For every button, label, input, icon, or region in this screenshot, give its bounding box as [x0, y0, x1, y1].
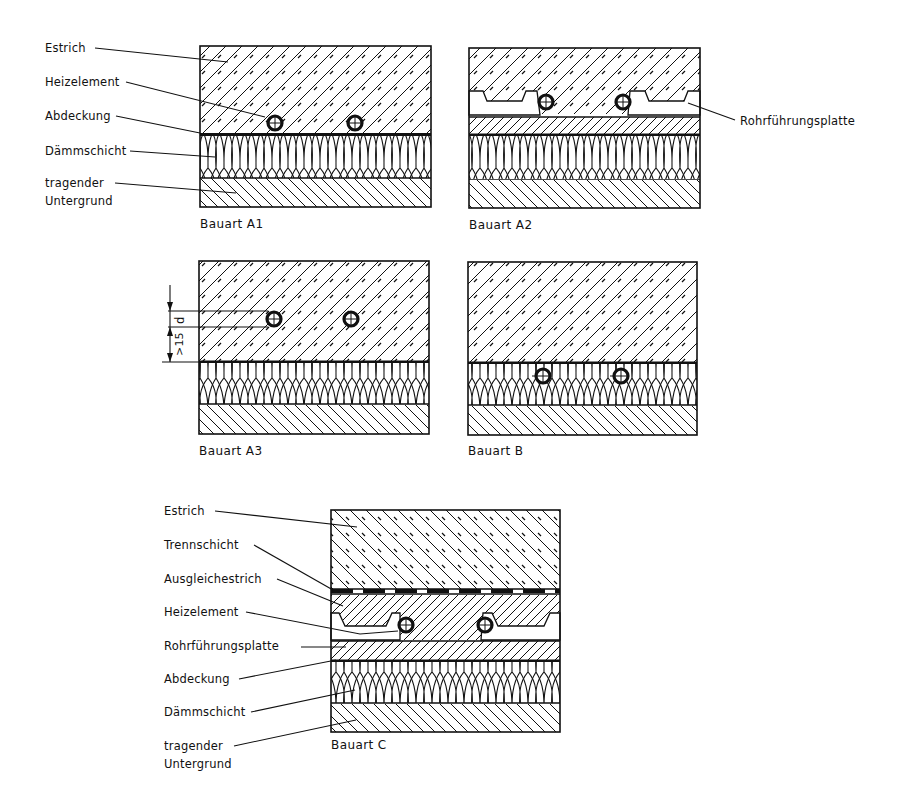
heating-pipe-icon — [539, 95, 553, 109]
label-estrich: Estrich — [164, 504, 205, 518]
insulation-layer — [200, 136, 431, 178]
insulation-layer — [469, 136, 700, 179]
label-tragender: tragender — [45, 176, 104, 190]
label-trennschicht: Trennschicht — [163, 538, 239, 552]
floor-heating-diagram: Estrich Heizelement Abdeckung Dämmschich… — [0, 0, 912, 809]
estrich-layer — [331, 510, 560, 589]
caption-bauart-b: Bauart B — [468, 444, 523, 458]
label-heizelement: Heizelement — [45, 75, 120, 89]
subfloor-layer — [468, 406, 697, 435]
panel-bauart-a1: Estrich Heizelement Abdeckung Dämmschich… — [45, 41, 431, 231]
caption-bauart-a1: Bauart A1 — [200, 217, 263, 231]
insulation-layer — [199, 363, 429, 404]
label-rohrfuehrungsplatte: Rohrführungsplatte — [164, 639, 279, 653]
panel-bauart-a3: d >15 Bauart A3 — [162, 261, 429, 458]
caption-bauart-c: Bauart C — [331, 738, 387, 752]
heating-pipe-icon — [478, 618, 492, 632]
heating-pipe-icon — [348, 116, 362, 130]
heating-pipe-icon — [344, 312, 358, 326]
label-abdeckung: Abdeckung — [45, 109, 111, 123]
label-heizelement: Heizelement — [164, 605, 239, 619]
caption-bauart-a3: Bauart A3 — [199, 444, 262, 458]
insulation-layer — [331, 662, 560, 703]
label-rohrfuehrungsplatte: Rohrführungsplatte — [740, 114, 855, 128]
heating-pipe-icon — [616, 95, 630, 109]
dim-label-d: d — [173, 317, 187, 325]
label-ausgleichestrich: Ausgleichestrich — [164, 572, 262, 586]
label-untergrund: Untergrund — [164, 757, 232, 771]
heating-pipe-icon — [267, 312, 281, 326]
estrich-layer — [200, 46, 431, 134]
rohrfuehrungsplatte-layer — [469, 117, 700, 134]
panel-bauart-b: Bauart B — [468, 262, 697, 458]
subfloor-layer — [331, 704, 560, 732]
subfloor-layer — [469, 180, 700, 208]
panel-bauart-a2: Rohrführungsplatte Bauart A2 — [469, 48, 855, 232]
heating-pipe-icon — [268, 116, 282, 130]
caption-bauart-a2: Bauart A2 — [469, 218, 532, 232]
estrich-layer — [468, 262, 697, 362]
label-abdeckung: Abdeckung — [164, 672, 230, 686]
subfloor-layer — [199, 405, 429, 434]
dim-label-15: >15 — [173, 332, 186, 356]
label-daemmschicht: Dämmschicht — [164, 705, 246, 719]
label-untergrund: Untergrund — [45, 194, 113, 208]
insulation-layer — [468, 364, 697, 405]
label-estrich: Estrich — [45, 41, 86, 55]
heating-pipe-icon — [399, 618, 413, 632]
panel-bauart-c: Estrich Trennschicht Ausgleichestrich He… — [163, 504, 560, 771]
label-tragender: tragender — [164, 739, 223, 753]
rohrfuehrungsplatte-layer — [331, 641, 560, 660]
label-daemmschicht: Dämmschicht — [45, 144, 127, 158]
